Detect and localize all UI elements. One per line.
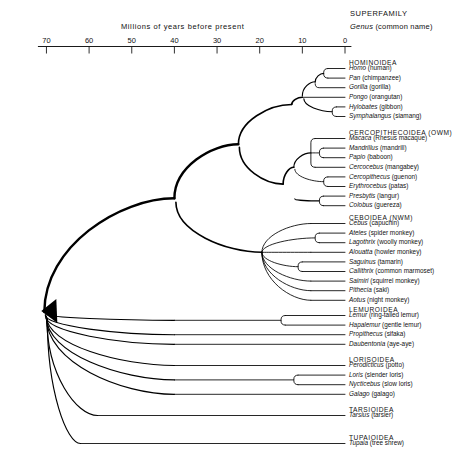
taxon-genus: Tupaia (349, 439, 368, 446)
branch-curve (46, 317, 174, 380)
taxon-label: Ateles (spider monkey) (349, 229, 414, 236)
taxon-genus: Homo (349, 64, 366, 71)
taxon-common: (orangutan) (367, 93, 402, 100)
taxon-common: (ring-tailed lemur) (367, 311, 419, 318)
branch-layer (41, 69, 345, 444)
taxon-common: (slender loris) (363, 371, 404, 378)
taxon-common: (baboon) (365, 153, 392, 160)
axis-tick-label: 70 (36, 36, 56, 45)
taxon-genus: Hylobates (349, 103, 377, 110)
taxon-label: Propithecus (sifaka) (349, 330, 405, 337)
axis-tick-label: 20 (250, 36, 270, 45)
taxon-label: Pithecia (saki) (349, 286, 389, 293)
branch-curve (45, 314, 174, 320)
taxon-common: (gentle lemur) (380, 321, 421, 328)
taxon-common: (siamang) (391, 112, 421, 119)
taxon-label: Tarsius (tarsier) (349, 411, 393, 418)
taxon-label: Aotus (night monkey) (349, 296, 409, 303)
branch-node (332, 107, 336, 117)
taxon-label: Galago (galago) (349, 390, 395, 397)
taxon-label: Macaca (Rhesus macaque) (349, 134, 427, 141)
taxon-common: (sifaka) (383, 330, 406, 337)
branch-node (315, 233, 319, 243)
branch-curve (44, 198, 174, 312)
axis-tick-label: 60 (79, 36, 99, 45)
branch-terminal (315, 84, 345, 88)
taxon-common: (woolly monkey) (375, 238, 423, 245)
taxon-common: (howler monkey) (372, 248, 421, 255)
taxon-label: Colobus (guereza) (349, 201, 402, 208)
branch-node (324, 177, 328, 187)
branch-curve (292, 97, 303, 104)
taxon-label: Homo (human) (349, 64, 392, 71)
tree-canvas (0, 0, 467, 472)
branch-node (319, 196, 323, 206)
taxon-label: Cebus (capuchin) (349, 219, 399, 226)
taxon-genus: Presbytis (349, 192, 375, 199)
branch-curve (315, 73, 324, 82)
taxon-label: Pan (chimpanzee) (349, 74, 401, 81)
taxon-label: Presbytis (langur) (349, 192, 399, 199)
taxon-common: (night monkey) (365, 296, 409, 303)
branch-curve (262, 238, 315, 252)
taxon-common: (chimpanzee) (360, 74, 401, 81)
taxon-genus: Lemur (349, 311, 367, 318)
phylogenetic-tree-figure: Millions of years before present SUPERFA… (0, 0, 467, 472)
branch-node (298, 262, 302, 272)
branch-curve (304, 99, 332, 112)
taxon-genus: Lagothrix (349, 238, 375, 245)
taxon-common: (tree shrew) (368, 439, 404, 446)
branch-curve (239, 147, 283, 184)
taxon-label: Hapalemur (gentle lemur) (349, 321, 421, 328)
taxon-genus: Pithecia (349, 286, 372, 293)
taxon-genus: Pongo (349, 93, 367, 100)
taxon-label: Lemur (ring-tailed lemur) (349, 311, 419, 318)
branch-node (324, 69, 328, 79)
taxon-genus: Saimiri (349, 277, 369, 284)
taxon-genus: Saguinus (349, 258, 376, 265)
taxon-genus: Alouatta (349, 248, 372, 255)
taxon-genus: Cercocebus (349, 163, 383, 170)
taxon-common: (gorilla) (367, 83, 390, 90)
axis-tick-label: 40 (164, 36, 184, 45)
taxon-common: (potto) (384, 361, 404, 368)
branch-curve (46, 318, 174, 395)
taxon-genus: Daubentonia (349, 340, 385, 347)
taxon-common: (patas) (387, 182, 409, 189)
taxon-common: (saki) (372, 286, 389, 293)
taxon-common: (guereza) (372, 201, 401, 208)
taxon-common: (squirrel monkey) (369, 277, 420, 284)
taxon-label: Cercopithecus (guenon) (349, 173, 417, 180)
branch-curve (295, 169, 324, 181)
taxon-genus: Erythrocebus (349, 182, 387, 189)
taxon-label: Callithrix (common marmoset) (349, 267, 434, 274)
taxon-genus: Galago (349, 390, 370, 397)
taxon-genus: Ateles (349, 229, 367, 236)
taxon-genus: Cebus (349, 219, 367, 226)
branch-curve (47, 319, 80, 444)
taxon-label: Saimiri (squirrel monkey) (349, 277, 420, 284)
taxon-genus: Hapalemur (349, 321, 380, 328)
taxon-genus: Symphalangus (349, 112, 391, 119)
axis-layer (38, 47, 351, 54)
taxon-genus: Nycticebus (349, 380, 380, 387)
taxon-common: (common marmoset) (374, 267, 435, 274)
taxon-genus: Propithecus (349, 330, 383, 337)
taxon-common: (aye-aye) (385, 340, 414, 347)
branch-node (294, 375, 298, 385)
branch-curve (283, 167, 294, 184)
taxon-common: (slow loris) (380, 380, 412, 387)
taxon-common: (spider monkey) (367, 229, 415, 236)
branch-node (319, 148, 323, 158)
taxon-label: Hylobates (gibbon) (349, 103, 403, 110)
taxon-genus: Pan (349, 74, 360, 81)
taxon-genus: Papio (349, 153, 365, 160)
taxon-genus: Macaca (349, 134, 371, 141)
taxon-label: Saguinus (tamarin) (349, 258, 403, 265)
taxon-common: (capuchin) (367, 219, 399, 226)
taxon-label: Erythrocebus (patas) (349, 182, 408, 189)
axis-tick-label: 0 (335, 36, 355, 45)
branch-curve (174, 144, 238, 198)
taxon-genus: Colobus (349, 201, 372, 208)
taxon-label: Loris (slender loris) (349, 371, 403, 378)
